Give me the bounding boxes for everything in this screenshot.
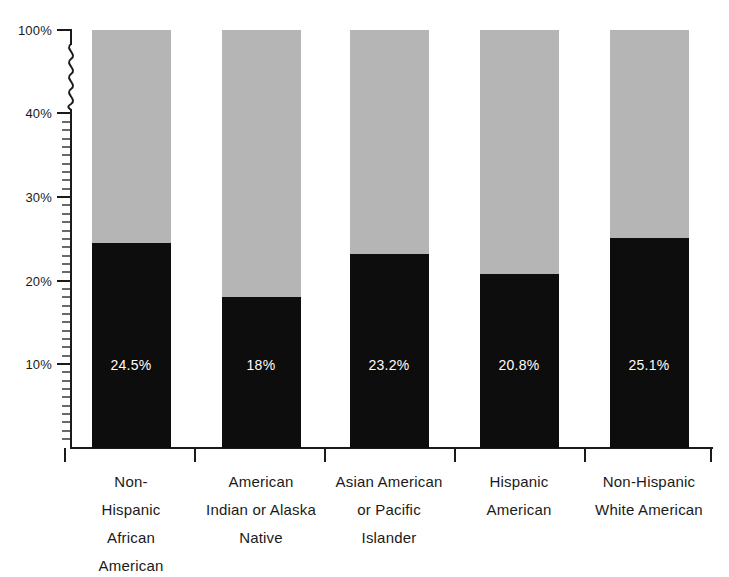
category-label-1-line-1: Indian or Alaska	[206, 501, 316, 518]
category-label-3-line-1: American	[487, 501, 552, 518]
category-label-4: Non-Hispanic White American	[595, 473, 703, 518]
bar-light-1[interactable]	[222, 30, 301, 297]
category-label-0-line-2: African	[107, 529, 155, 546]
bar-light-4[interactable]	[610, 30, 689, 238]
category-label-2: Asian American or Pacific Islander	[335, 473, 442, 546]
y-tick-label-40: 40%	[25, 106, 52, 121]
y-axis-tick-labels: 100% 40% 30% 20% 10%	[18, 23, 52, 372]
bar-dark-0[interactable]	[92, 243, 171, 448]
y-tick-label-20: 20%	[25, 274, 52, 289]
category-label-0-line-3: American	[99, 557, 164, 574]
bar-dark-4[interactable]	[610, 238, 689, 448]
bar-value-labels: 24.5% 18% 23.2% 20.8% 25.1%	[110, 357, 669, 373]
category-label-1-line-2: Native	[239, 529, 283, 546]
bar-light-3[interactable]	[480, 30, 559, 274]
bar-value-label-3: 20.8%	[498, 357, 539, 373]
category-label-0: Non- Hispanic African American	[99, 473, 164, 574]
chart-container: 100% 40% 30% 20% 10% 24.5% 18% 23.2%	[0, 0, 729, 577]
category-label-3-line-0: Hispanic	[489, 473, 548, 490]
category-label-1-line-0: American	[229, 473, 294, 490]
axis-break-squiggle-icon	[68, 44, 73, 110]
category-labels: Non- Hispanic African American American …	[99, 473, 703, 574]
bar-light-2[interactable]	[350, 30, 429, 254]
category-label-4-line-0: Non-Hispanic	[603, 473, 696, 490]
category-label-1: American Indian or Alaska Native	[206, 473, 316, 546]
bar-value-label-0: 24.5%	[110, 357, 151, 373]
category-label-3: Hispanic American	[487, 473, 552, 518]
category-label-2-line-2: Islander	[362, 529, 417, 546]
category-label-4-line-1: White American	[595, 501, 703, 518]
x-axis	[65, 448, 712, 462]
bar-value-label-2: 23.2%	[368, 357, 409, 373]
bar-light-0[interactable]	[92, 30, 171, 243]
category-label-0-line-1: Hispanic	[101, 501, 160, 518]
bar-value-label-1: 18%	[247, 357, 276, 373]
y-tick-label-30: 30%	[25, 190, 52, 205]
bar-value-label-4: 25.1%	[628, 357, 669, 373]
bars-dark-series	[92, 238, 689, 448]
bar-dark-2[interactable]	[350, 254, 429, 448]
category-label-2-line-1: or Pacific	[357, 501, 421, 518]
category-label-0-line-0: Non-	[114, 473, 147, 490]
category-label-2-line-0: Asian American	[335, 473, 442, 490]
stacked-bar-chart: 100% 40% 30% 20% 10% 24.5% 18% 23.2%	[0, 0, 729, 577]
y-tick-label-100: 100%	[18, 23, 52, 38]
y-tick-label-10: 10%	[25, 357, 52, 372]
